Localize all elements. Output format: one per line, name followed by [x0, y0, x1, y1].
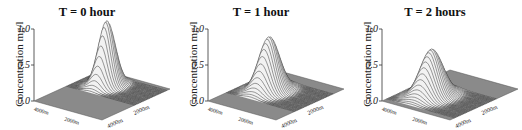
chart-panel-0: T = 0 hour Concentration mg/l 0.00.51.04…: [0, 0, 174, 130]
z-tick-label: 0.5: [366, 59, 379, 70]
x-tick-label: 4000m: [381, 106, 398, 116]
z-tick-label: 1.0: [366, 23, 379, 34]
z-tick-label: 0.0: [192, 95, 205, 106]
x-tick-label: 4000m: [33, 106, 50, 116]
z-tick-label: 1.0: [192, 23, 205, 34]
x-tick-label: 2000m: [64, 116, 81, 126]
y-tick-label: 2000m: [307, 104, 325, 116]
y-tick-label: 2000m: [481, 104, 499, 116]
z-tick-label: 1.0: [18, 23, 31, 34]
x-tick-label: 4000m: [207, 106, 224, 116]
surface-plot: 0.00.51.04000m2000m4000m2000m: [174, 0, 348, 130]
surface-plot: 0.00.51.04000m2000m4000m2000m: [0, 0, 174, 130]
chart-panel-1: T = 1 hour Concentration mg/l 0.00.51.04…: [174, 0, 348, 130]
x-tick-label: 2000m: [238, 116, 255, 126]
y-tick-label: 2000m: [133, 104, 151, 116]
surface-plot: 0.00.51.04000m2000m4000m2000m: [348, 0, 522, 130]
y-tick-label: 4000m: [280, 117, 298, 129]
chart-panel-2: T = 2 hours Concentration mg/l 0.00.51.0…: [348, 0, 522, 130]
z-tick-label: 0.5: [18, 59, 31, 70]
y-tick-label: 4000m: [106, 117, 124, 129]
z-tick-label: 0.0: [366, 95, 379, 106]
z-tick-label: 0.0: [18, 95, 31, 106]
y-tick-label: 4000m: [454, 117, 472, 129]
x-tick-label: 2000m: [412, 116, 429, 126]
z-tick-label: 0.5: [192, 59, 205, 70]
